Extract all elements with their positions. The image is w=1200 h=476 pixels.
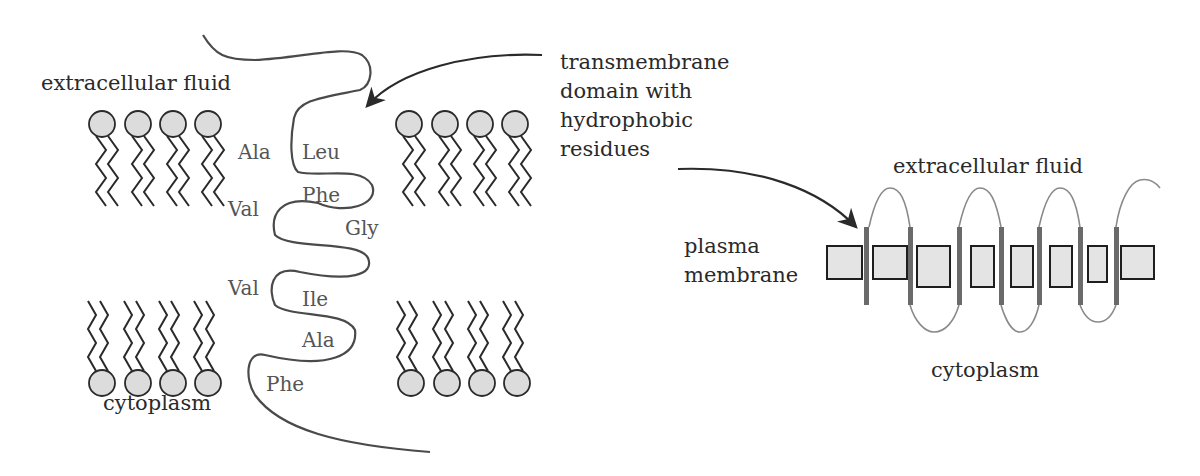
plasma-membrane-line-1: plasma xyxy=(684,232,798,261)
lipid-bilayer-right-top xyxy=(396,111,531,206)
plasma-membrane-line-2: membrane xyxy=(684,261,798,290)
left-cytoplasm-label: cytoplasm xyxy=(103,393,211,414)
callout-line-2: domain with xyxy=(560,77,730,106)
lipid-bilayer-left-bottom xyxy=(88,301,221,396)
residue-phe-upper: Phe xyxy=(302,185,340,205)
residue-ile: Ile xyxy=(302,289,328,309)
callout-line-4: residues xyxy=(560,135,730,164)
callout-line-3: hydrophobic xyxy=(560,106,730,135)
extracellular-loops xyxy=(869,180,1160,227)
plasma-membrane-blocks xyxy=(827,246,1154,287)
membrane-protein-figure: extracellular fluid cytoplasm Ala Val Va… xyxy=(0,0,1200,476)
arrow-to-transmembrane-domain xyxy=(368,55,542,105)
lipid-bilayer-right-bottom xyxy=(397,301,530,396)
lipid-bilayer-left-top xyxy=(89,111,224,206)
right-cytoplasm-label: cytoplasm xyxy=(931,360,1039,381)
polypeptide-chain xyxy=(203,35,430,452)
arrow-to-helix xyxy=(678,169,855,226)
residue-phe-lower: Phe xyxy=(266,374,304,394)
left-extracellular-label: extracellular fluid xyxy=(41,73,231,94)
residue-gly: Gly xyxy=(345,218,379,238)
right-extracellular-label: extracellular fluid xyxy=(893,156,1083,177)
residue-ala-chain: Ala xyxy=(302,330,335,350)
plasma-membrane-label: plasma membrane xyxy=(684,232,798,290)
transmembrane-callout: transmembrane domain with hydrophobic re… xyxy=(560,48,730,164)
cytoplasmic-loops xyxy=(910,305,1116,332)
residue-ala-left: Ala xyxy=(238,142,271,162)
residue-val-lower: Val xyxy=(228,278,259,298)
callout-line-1: transmembrane xyxy=(560,48,730,77)
residue-leu: Leu xyxy=(302,142,340,162)
residue-val-upper: Val xyxy=(228,199,259,219)
